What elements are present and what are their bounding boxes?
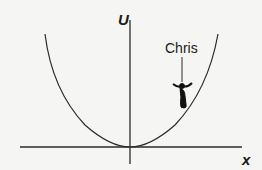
character-label: Chris [165, 40, 198, 56]
x-axis-label: x [242, 151, 250, 168]
diagram-graphics [0, 0, 262, 170]
diagram-canvas: U x Chris [0, 0, 262, 170]
y-axis-label: U [118, 11, 129, 28]
person-icon [173, 83, 192, 108]
